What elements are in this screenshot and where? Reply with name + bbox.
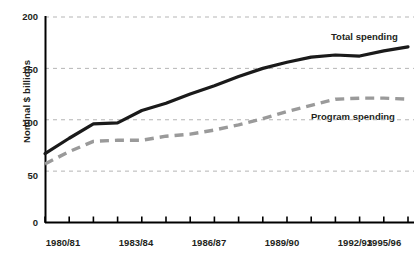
plot-area — [0, 0, 419, 264]
line-total-spending — [45, 47, 408, 154]
chart-container: Nominal $ billions 200 150 100 50 0 1980… — [0, 0, 419, 264]
line-program-spending — [45, 98, 408, 164]
gridlines — [45, 17, 414, 171]
